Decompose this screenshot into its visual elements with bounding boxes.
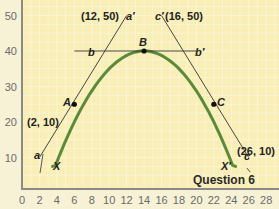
annotation-12-50: (12, 50) xyxy=(81,10,119,22)
y-tick-label: 50 xyxy=(5,10,17,22)
y-tick-label: 40 xyxy=(5,45,17,57)
label-C: C xyxy=(217,96,226,108)
annotation-2-10: (2, 10) xyxy=(27,116,59,128)
x-tick-label: 4 xyxy=(54,194,60,206)
label-b: b xyxy=(88,46,95,58)
label-b-prime: b′ xyxy=(195,46,206,58)
x-tick-label: 12 xyxy=(121,194,133,206)
y-tick-label: 20 xyxy=(5,116,17,128)
label-B: B xyxy=(139,36,147,48)
point-C xyxy=(211,102,216,107)
x-tick-label: 28 xyxy=(260,194,272,206)
y-tick-label: 10 xyxy=(5,152,17,164)
x-tick-label: 20 xyxy=(190,194,202,206)
chart-title: Question 6 xyxy=(193,173,255,187)
x-tick-label: 6 xyxy=(71,194,77,206)
x-tick-label: 24 xyxy=(225,194,237,206)
x-tick-labels: 0246810121416182022242628 xyxy=(19,194,272,206)
y-tick-label: 30 xyxy=(5,81,17,93)
label-a: a xyxy=(34,149,40,161)
point-B xyxy=(141,48,146,53)
x-tick-label: 2 xyxy=(36,194,42,206)
plot-area xyxy=(22,0,279,189)
point-A xyxy=(72,102,77,107)
annotation-26-10: (26, 10) xyxy=(237,145,275,157)
chart: 1020304050 0246810121416182022242628 (12… xyxy=(0,0,279,209)
label-a-prime: a′ xyxy=(126,10,136,22)
x-tick-label: 8 xyxy=(89,194,95,206)
annotation-16-50: (16, 50) xyxy=(165,10,203,22)
x-tick-label: 22 xyxy=(208,194,220,206)
x-tick-label: 14 xyxy=(138,194,150,206)
x-tick-label: 10 xyxy=(103,194,115,206)
label-X-prime: X′ xyxy=(220,160,232,172)
x-tick-label: 18 xyxy=(173,194,185,206)
y-tick-labels: 1020304050 xyxy=(5,10,17,164)
label-A: A xyxy=(62,96,71,108)
x-tick-label: 0 xyxy=(19,194,25,206)
x-tick-label: 26 xyxy=(243,194,255,206)
label-c-prime: c′ xyxy=(155,10,165,22)
label-c: c xyxy=(244,150,250,162)
x-tick-label: 16 xyxy=(155,194,167,206)
label-X: X xyxy=(52,160,61,172)
